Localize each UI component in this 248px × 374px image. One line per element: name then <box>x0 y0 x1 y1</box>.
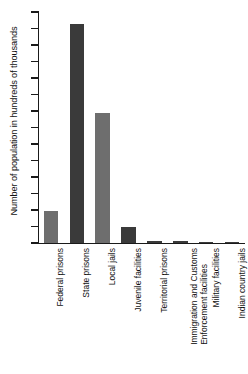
bar <box>225 242 240 243</box>
bar <box>44 211 59 243</box>
x-axis-category-label: Military facilities <box>211 248 221 308</box>
y-axis-tick <box>31 176 38 177</box>
x-axis-category-label: Indian country jails <box>237 248 247 318</box>
x-axis-category-label-line: Local jails <box>107 248 117 285</box>
y-axis-tick <box>31 160 38 161</box>
x-axis-category-label-line: Military facilities <box>211 248 221 308</box>
bar-series <box>38 12 245 243</box>
x-axis-category-label: Federal prisons <box>55 248 65 307</box>
y-axis-tick <box>31 94 38 95</box>
bar <box>147 241 162 243</box>
x-axis-category-label-line: Juvenile facilities <box>133 248 143 312</box>
bar <box>173 241 188 243</box>
x-axis-category-label: State prisons <box>81 248 91 298</box>
y-axis-tick <box>31 226 38 227</box>
y-axis-tick <box>31 61 38 62</box>
x-axis-category-label: Juvenile facilities <box>133 248 143 312</box>
bar <box>70 24 85 243</box>
y-axis-tick <box>31 44 38 45</box>
y-axis-tick <box>31 110 38 111</box>
x-axis-category-label-line: Enforcement facilities <box>199 248 209 345</box>
y-axis-tick <box>31 11 38 12</box>
x-axis-category-label-line: Territorial prisons <box>159 248 169 313</box>
y-axis-tick <box>31 77 38 78</box>
x-axis-category-label: Local jails <box>107 248 117 285</box>
y-axis-tick <box>31 209 38 210</box>
y-axis-tick <box>31 193 38 194</box>
x-axis-category-label: Territorial prisons <box>159 248 169 313</box>
y-axis-title: Number of population in hundreds of thou… <box>9 3 19 239</box>
bar <box>121 227 136 244</box>
x-axis-category-label-line: Immigration and Customs <box>189 248 199 345</box>
bar <box>199 242 214 243</box>
x-axis-category-label-line: Federal prisons <box>55 248 65 307</box>
y-axis-tick <box>31 28 38 29</box>
bar <box>95 113 110 243</box>
y-axis-tick <box>31 143 38 144</box>
x-axis-category-label: Immigration and CustomsEnforcement facil… <box>189 248 209 345</box>
y-axis-tick <box>31 127 38 128</box>
bar-chart: Number of population in hundreds of thou… <box>0 0 248 374</box>
x-axis-category-label-line: State prisons <box>81 248 91 298</box>
x-axis-category-label-line: Indian country jails <box>237 248 247 318</box>
